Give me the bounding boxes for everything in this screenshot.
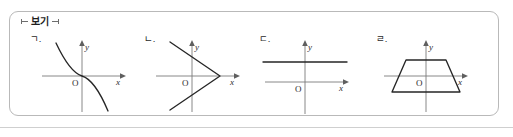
origin-label-4: O — [416, 78, 423, 88]
y-axis-label-3: y — [307, 42, 312, 52]
page-sheet: 보기 ㄱ. x y O ㄴ. — [0, 0, 513, 137]
y-axis-label-2: y — [194, 42, 199, 52]
figure-item-1: ㄱ. x y O — [24, 30, 140, 116]
figure-graph-2: x y O — [138, 30, 254, 116]
y-axis-label-1: y — [84, 42, 89, 52]
figure-graph-3: x y O — [253, 30, 369, 116]
x-axis-label-4: x — [457, 77, 462, 87]
figure-item-4: ㄹ. x y O — [370, 30, 486, 116]
origin-label-2: O — [182, 78, 189, 88]
bracket-tick-right-icon — [52, 21, 59, 22]
bogi-title: 보기 — [28, 17, 52, 27]
bogi-header: 보기 — [20, 15, 60, 28]
origin-label-1: O — [72, 78, 79, 88]
x-axis-label-1: x — [115, 77, 120, 87]
figure-item-2: ㄴ. x y O — [138, 30, 254, 116]
figure-graph-1: x y O — [24, 30, 140, 116]
x-axis-label-3: x — [338, 83, 343, 93]
x-axis-label-2: x — [229, 77, 234, 87]
bottom-separator-rule — [0, 127, 513, 128]
y-axis-label-4: y — [428, 42, 433, 52]
bracket-tick-left-icon — [21, 21, 28, 22]
figure-graph-4: x y O — [370, 30, 486, 116]
bogi-box: 보기 ㄱ. x y O ㄴ. — [9, 11, 499, 116]
origin-label-3: O — [295, 84, 302, 94]
figure-item-3: ㄷ. x y O — [253, 30, 369, 116]
